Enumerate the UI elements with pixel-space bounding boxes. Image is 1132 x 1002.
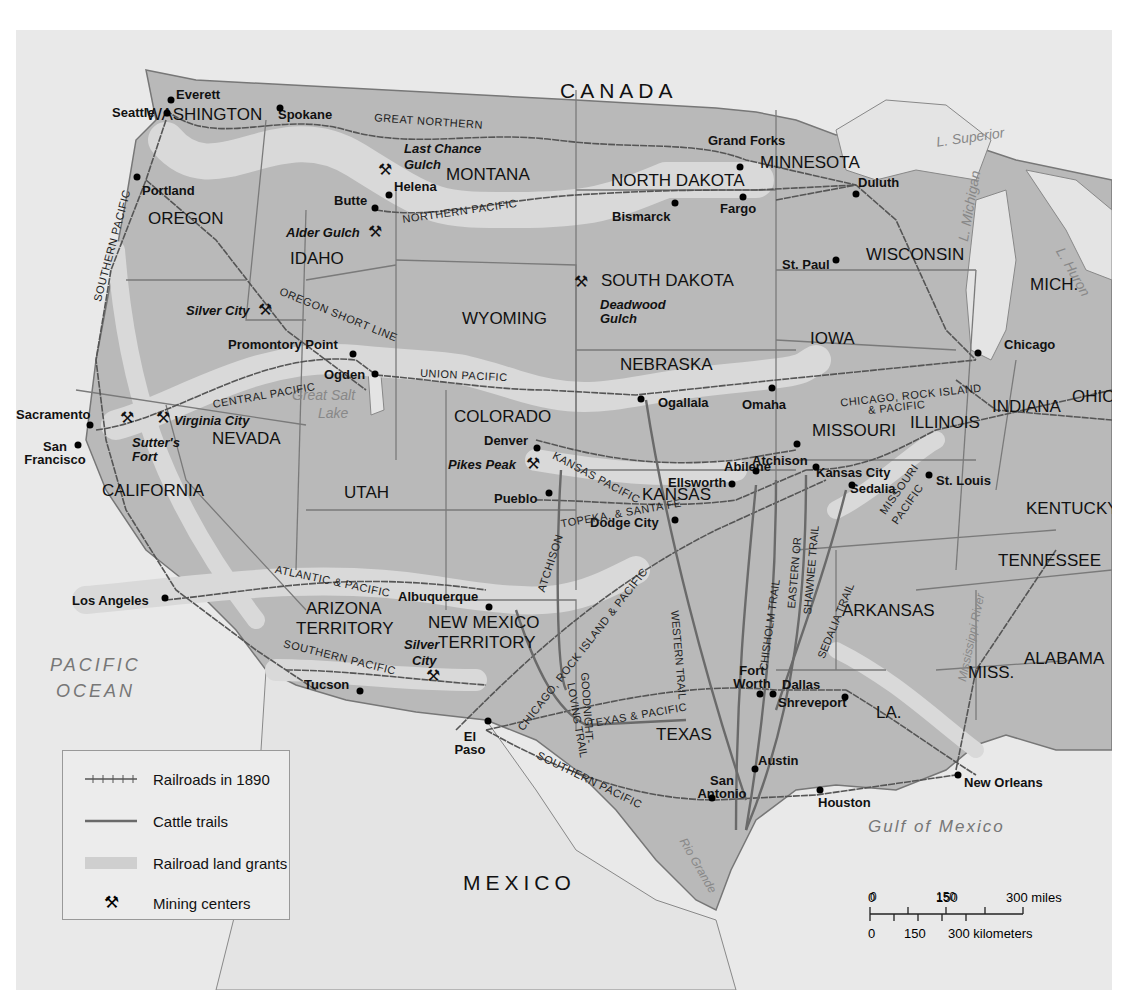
legend-item-land-grants: Railroad land grants <box>63 853 287 873</box>
pick-axe-icon: ⚒ <box>368 224 382 240</box>
scale-miles-150-label: 150 <box>936 890 958 905</box>
mine-sutters-fort-1: Sutter's <box>132 436 180 449</box>
mine-deadwood-2: Gulch <box>600 312 637 325</box>
scale-bar-line <box>868 906 1028 926</box>
scale-miles-0-label: 0 <box>868 890 875 905</box>
mine-silver-city-nm-2: City <box>412 654 437 667</box>
pick-axe-icon: ⚒ <box>526 456 540 472</box>
mine-pikes-peak: Pikes Peak <box>448 458 516 471</box>
pick-axe-icon: ⚒ <box>258 302 272 318</box>
mine-sutters-fort-2: Fort <box>132 450 157 463</box>
mine-last-chance-1: Last Chance <box>404 142 481 155</box>
legend-item-mining-centers: ⚒ Mining centers <box>63 893 251 913</box>
mine-last-chance-2: Gulch <box>404 158 441 171</box>
scale-km-0-label: 0 <box>868 926 875 941</box>
scale-km-150-label: 150 <box>904 926 926 941</box>
mine-deadwood-1: Deadwood <box>600 298 666 311</box>
legend-item-railroads: Railroads in 1890 <box>63 769 270 789</box>
legend-label: Railroads in 1890 <box>153 771 270 788</box>
mine-alder-gulch: Alder Gulch <box>286 226 360 239</box>
map-legend: Railroads in 1890 Cattle trails Railroad… <box>62 750 290 920</box>
pick-axe-icon: ⚒ <box>378 162 392 178</box>
scale-km-300-label: 300 kilometers <box>948 926 1033 941</box>
cattle-trail-line-symbol <box>83 811 139 831</box>
legend-label: Mining centers <box>153 895 251 912</box>
legend-item-cattle-trails: Cattle trails <box>63 811 228 831</box>
mine-silver-city-idaho: Silver City <box>186 304 250 317</box>
pick-axe-icon: ⚒ <box>574 274 588 290</box>
pick-axe-icon: ⚒ <box>120 410 134 426</box>
railroad-line-symbol <box>83 769 139 789</box>
scale-bar-detail: 0 150 300 miles 0 150 300 kilometers <box>866 890 1086 950</box>
legend-label: Railroad land grants <box>153 855 287 872</box>
scale-miles-300-label: 300 miles <box>1006 890 1062 905</box>
pick-axe-icon: ⚒ <box>426 668 440 684</box>
mine-silver-city-nm-1: Silver <box>404 638 439 651</box>
pick-axe-icon: ⚒ <box>83 893 139 913</box>
land-grant-band-symbol <box>83 853 139 873</box>
pick-axe-icon: ⚒ <box>156 410 170 426</box>
legend-label: Cattle trails <box>153 813 228 830</box>
mine-virginia-city: Virginia City <box>174 414 249 427</box>
